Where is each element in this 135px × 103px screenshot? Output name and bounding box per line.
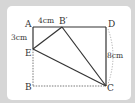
label-b: B [25, 82, 32, 92]
geometry-figure: A B′ D E B C 4cm 3cm 8cm [0, 0, 135, 103]
segment-ec [33, 49, 106, 86]
label-b-prime: B′ [59, 16, 68, 26]
segment-eb-prime [33, 27, 62, 49]
measure-ab-prime: 4cm [38, 16, 54, 25]
label-a: A [24, 19, 32, 29]
label-d: D [108, 19, 115, 29]
segment-b-prime-c [62, 27, 106, 86]
measure-dc: 8cm [107, 51, 123, 60]
label-e: E [25, 48, 32, 58]
label-c: C [107, 83, 114, 93]
measure-ae: 3cm [11, 33, 27, 42]
